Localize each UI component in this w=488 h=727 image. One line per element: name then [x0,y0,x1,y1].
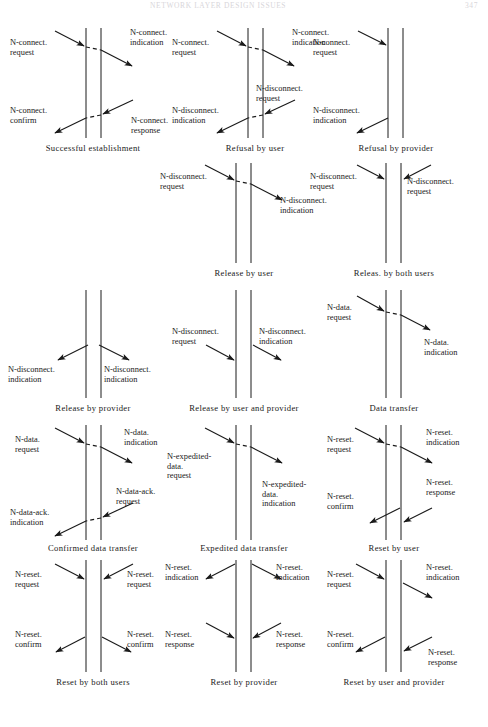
label-n-disconnect-indication: N-disconnect. indication [172,106,219,125]
label-n-data-request-9: N-data. request [15,435,40,454]
caption-refusal-by-user: Refusal by user [226,143,285,153]
label-n-disconnect-request-5b: N-disconnect. request [407,177,454,196]
label-n-reset-indication-13a: N-reset. indication [165,563,199,582]
label-n-connect-confirm: N-connect. confirm [10,106,47,125]
label-n-reset-request-11: N-reset. request [327,435,354,454]
caption-release-by-user: Release by user [214,268,273,278]
caption-reset-by-user-and-provider: Reset by user and provider [343,677,444,687]
label-n-disconnect-request-7: N-disconnect. request [172,327,219,346]
label-n-reset-confirm-11: N-reset. confirm [327,492,354,511]
caption-reset-by-provider: Reset by provider [210,677,277,687]
label-n-data-indication-9: N-data. indication [124,428,158,447]
caption-release-by-user-and-provider: Release by user and provider [189,403,299,413]
caption-refusal-by-provider: Refusal by provider [359,143,434,153]
label-n-expedited-data-request: N-expedited- data. request [167,452,211,481]
label-n-reset-indication-11: N-reset. indication [426,428,460,447]
caption-reset-by-both-users: Reset by both users [56,677,130,687]
caption-release-by-provider: Release by provider [55,403,130,413]
caption-release-by-both-users: Releas. by both users [354,268,434,278]
caption-confirmed-data-transfer: Confirmed data transfer [48,543,138,553]
label-n-disconnect-request-4: N-disconnect. request [160,172,207,191]
label-n-data-ack-request: N-data-ack. request [116,487,155,506]
label-n-disconnect-indication-7: N-disconnect. indication [259,327,306,346]
caption-data-transfer: Data transfer [369,403,418,413]
label-n-data-indication: N-data. indication [424,338,458,357]
label-n-disconnect-indication-4: N-disconnect. indication [280,196,327,215]
label-n-reset-response-13a: N-reset. response [165,630,194,649]
label-n-expedited-data-indication: N-expedited- data. indication [262,480,306,509]
label-n-reset-response-11: N-reset. response [426,478,455,497]
label-n-reset-request-12a: N-reset. request [15,570,42,589]
label-n-connect-request-3: N-connect. request [313,38,350,57]
figure-label-layer: N-connect. request N-connect. indication… [0,0,488,727]
label-n-connect-request-2: N-connect. request [172,38,209,57]
label-n-reset-response-13b: N-reset. response [276,630,305,649]
label-n-disconnect-request-5a: N-disconnect. request [310,172,357,191]
label-n-data-request: N-data. request [327,303,352,322]
caption-reset-by-user: Reset by user [369,543,420,553]
label-n-connect-response: N-connect. response [131,116,168,135]
label-n-reset-request-12b: N-reset. request [127,570,154,589]
label-n-connect-indication: N-connect. indication [130,28,167,47]
label-n-reset-indication-13b: N-reset. indication [276,563,310,582]
caption-successful-establishment: Successful establishment [46,143,141,153]
label-n-reset-indication-14: N-reset. indication [426,563,460,582]
label-n-disconnect-indication-6a: N-disconnect. indication [8,365,55,384]
label-n-connect-request: N-connect. request [10,38,47,57]
label-n-reset-confirm-12b: N-reset. confirm [127,630,154,649]
caption-expedited-data-transfer: Expedited data transfer [200,543,288,553]
label-n-reset-confirm-14: N-reset. confirm [327,630,354,649]
label-n-disconnect-indication-3: N-disconnect. indication [313,106,360,125]
label-n-reset-confirm-12a: N-reset. confirm [15,630,42,649]
label-n-disconnect-request: N-disconnect. request [256,84,303,103]
label-n-reset-response-14: N-reset. response [428,648,457,667]
label-n-reset-request-14: N-reset. request [327,570,354,589]
label-n-disconnect-indication-6b: N-disconnect. indication [104,365,151,384]
label-n-data-ack-indication: N-data-ack. indication [10,508,49,527]
